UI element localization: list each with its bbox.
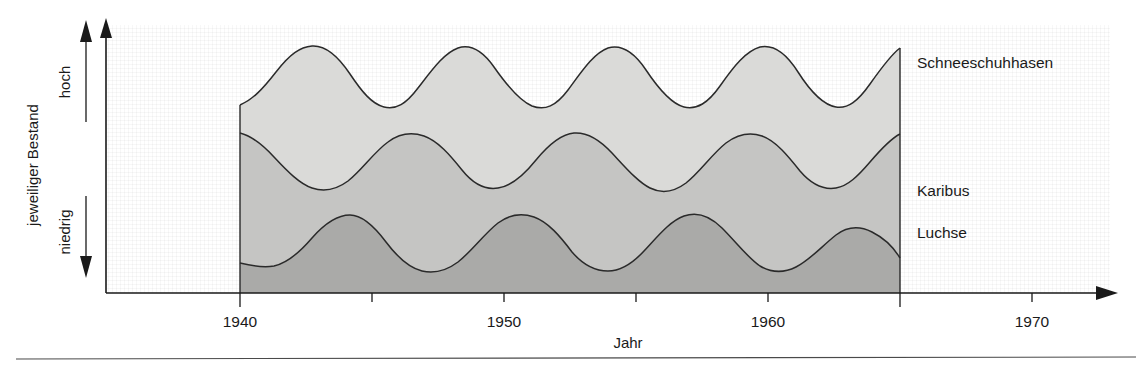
y-scale-label-hoch: hoch	[56, 66, 73, 99]
x-tick-label-1940: 1940	[223, 313, 258, 330]
footer-divider	[16, 357, 1136, 359]
x-tick-label-1970: 1970	[1015, 313, 1050, 330]
niedrig-arrow-down-icon	[80, 256, 92, 278]
series-label-luchse: Luchse	[917, 224, 967, 241]
y-axis-title: jeweiliger Bestand	[24, 104, 41, 227]
series-label-karibus: Karibus	[917, 182, 970, 199]
population-cycles-area-chart: 1940 1950 1960 1970 Jahr jeweiliger Best…	[0, 0, 1144, 369]
hoch-arrow-up-icon	[80, 20, 92, 42]
figure-container: 1940 1950 1960 1970 Jahr jeweiliger Best…	[0, 0, 1144, 369]
x-tick-label-1960: 1960	[751, 313, 786, 330]
series-label-schneeschuhhasen: Schneeschuhhasen	[917, 54, 1053, 71]
y-scale-label-niedrig: niedrig	[56, 209, 73, 254]
x-axis-ticks	[240, 293, 1032, 307]
x-axis-title: Jahr	[613, 334, 642, 351]
x-tick-label-1950: 1950	[487, 313, 522, 330]
